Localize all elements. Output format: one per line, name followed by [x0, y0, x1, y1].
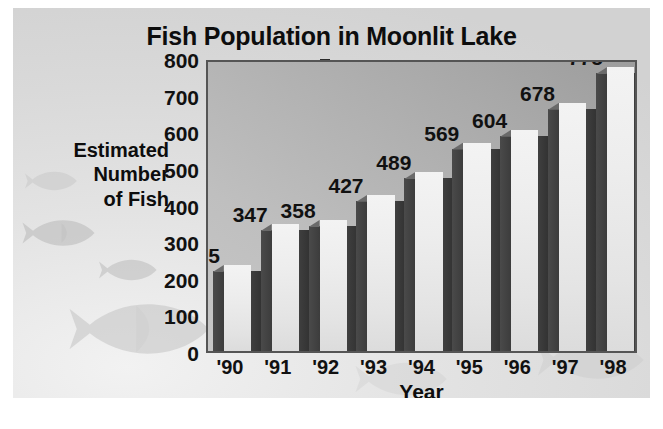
bar-side-face [309, 226, 320, 351]
bar-right-edge [299, 230, 309, 351]
bar-front-face [224, 265, 251, 351]
x-tick-label: '98 [600, 356, 627, 379]
y-tick-label: 400 [164, 196, 199, 217]
bar-slot [452, 62, 490, 351]
bar-side-face [596, 73, 607, 351]
bar-value-label: 569 [424, 123, 459, 144]
bar-front-face [607, 67, 634, 351]
bar-slot [500, 62, 538, 351]
bar-value-label: 678 [520, 83, 555, 104]
y-tick-label: 700 [164, 86, 199, 107]
bar-front-face [415, 172, 442, 351]
x-tick-label: '90 [216, 356, 243, 379]
bar[interactable] [548, 103, 586, 351]
bar-right-edge [586, 109, 596, 351]
bar-slot [596, 62, 634, 351]
plot-area: 235347358427489569604678775 [206, 60, 637, 353]
bar-front-face [320, 220, 347, 351]
bar-slot [404, 62, 442, 351]
x-tick-label: '93 [360, 356, 387, 379]
fish-silhouette-icon [21, 218, 99, 248]
bar-right-edge [634, 73, 637, 351]
bar-side-face [548, 109, 559, 351]
x-tick-label: '95 [456, 356, 483, 379]
bar-front-face [367, 195, 394, 351]
bar-side-face [452, 149, 463, 351]
y-tick-label: 600 [164, 123, 199, 144]
y-tick-label: 800 [164, 50, 199, 71]
bar[interactable] [356, 195, 394, 351]
bar-value-label: 427 [328, 175, 363, 196]
bar-slot [356, 62, 394, 351]
bar-right-edge [491, 149, 501, 351]
bar-side-face [500, 136, 511, 351]
bar[interactable] [596, 67, 634, 351]
bar-side-face [404, 178, 415, 351]
bar-value-label: 358 [281, 200, 316, 221]
y-tick-label: 500 [164, 159, 199, 180]
bar[interactable] [213, 265, 251, 351]
bar-side-face [213, 271, 224, 351]
bar-side-face [356, 201, 367, 351]
x-tick-label: '96 [504, 356, 531, 379]
bar-right-edge [347, 226, 357, 351]
bar-value-label: 347 [233, 204, 268, 225]
bar-value-label: 235 [206, 245, 220, 266]
bar-front-face [511, 130, 538, 351]
x-tick-label: '92 [312, 356, 339, 379]
bar-right-edge [443, 178, 453, 351]
bar-value-label: 775 [568, 60, 603, 68]
chart-canvas: Fish Population in Moonlit Lake Estimate… [0, 0, 663, 429]
bar[interactable] [309, 220, 347, 351]
bar-right-edge [251, 271, 261, 351]
bar-value-label: 604 [472, 110, 507, 131]
x-tick-label: '91 [264, 356, 291, 379]
x-tick-label: '97 [552, 356, 579, 379]
x-tick-label: '94 [408, 356, 435, 379]
bar-front-face [559, 103, 586, 351]
bar-value-label: 489 [376, 152, 411, 173]
y-axis-ticks: 0100200300400500600700800 [133, 60, 199, 353]
y-tick-label: 200 [164, 269, 199, 290]
bar-side-face [261, 230, 272, 351]
bar-front-face [463, 143, 490, 351]
bar-right-edge [395, 201, 405, 351]
x-axis-title: Year [206, 380, 637, 398]
bar[interactable] [261, 224, 299, 351]
chart-title: Fish Population in Moonlit Lake [13, 22, 650, 51]
bar[interactable] [500, 130, 538, 351]
bar-series: 235347358427489569604678775 [208, 62, 635, 351]
chart-background: Fish Population in Moonlit Lake Estimate… [13, 8, 650, 398]
y-tick-label: 100 [164, 306, 199, 327]
bar[interactable] [404, 172, 442, 351]
bar-right-edge [538, 136, 548, 351]
bar-front-face [272, 224, 299, 351]
y-tick-label: 300 [164, 233, 199, 254]
bar[interactable] [452, 143, 490, 351]
y-tick-label: 0 [187, 343, 199, 364]
bar-slot [548, 62, 586, 351]
